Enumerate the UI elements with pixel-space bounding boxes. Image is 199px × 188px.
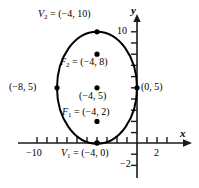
label-focus-top: F2 = (−4, 8) — [60, 57, 108, 69]
point-right-covertex — [134, 85, 139, 90]
y-tick-label-neg-two: −2 — [120, 159, 131, 169]
x-tick-label-neg-ten: −10 — [26, 148, 42, 158]
label-focus-bottom-eq: = (−4, 2) — [72, 106, 110, 117]
y-tick-label-ten: 10 — [117, 26, 127, 36]
x-axis-ticks — [37, 137, 167, 143]
label-vertex-top-eq: = (−4, 10) — [48, 8, 91, 19]
label-right-covertex: (0, 5) — [141, 82, 163, 92]
label-vertex-bottom: V1 = (−4, 0) — [61, 148, 109, 160]
label-left-covertex: (−8, 5) — [9, 82, 36, 92]
label-focus-top-eq: = (−4, 8) — [70, 56, 108, 67]
ellipse-figure: V2 = (−4, 10) F2 = (−4, 8) (−4, 5) F1 = … — [0, 0, 199, 188]
label-vertex-top: V2 = (−4, 10) — [38, 9, 91, 21]
point-vertex-bottom — [94, 140, 100, 146]
x-axis-arrow — [183, 139, 192, 147]
label-center: (−4, 5) — [79, 91, 106, 101]
point-left-covertex — [54, 85, 59, 90]
point-focus-bottom — [94, 119, 99, 124]
plotted-points — [54, 29, 139, 146]
label-vertex-bottom-eq: = (−4, 0) — [71, 147, 109, 158]
x-axis-name: x — [180, 128, 186, 139]
x-tick-label-two: 2 — [154, 148, 159, 158]
label-focus-bottom: F1 = (−4, 2) — [62, 107, 110, 119]
point-vertex-top — [94, 29, 99, 34]
y-axis-name: y — [131, 5, 136, 16]
